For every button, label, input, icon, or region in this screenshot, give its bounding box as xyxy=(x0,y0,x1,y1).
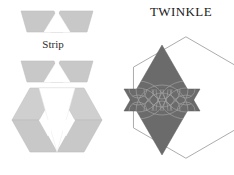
assembled-hexagon xyxy=(12,88,102,152)
pattern-diagram-canvas: TWINKLE Strip xyxy=(0,0,234,175)
pattern-title: TWINKLE xyxy=(150,3,234,21)
strip-unit-top xyxy=(21,11,93,32)
quilt-pattern-illustration xyxy=(0,0,234,175)
strip-label: Strip xyxy=(18,36,88,52)
strip-unit-second xyxy=(21,61,93,82)
six-pointed-star xyxy=(108,45,216,155)
